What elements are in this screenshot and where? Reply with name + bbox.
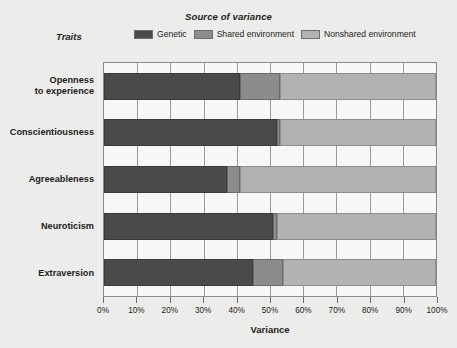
y-axis-tick-label-text: Conscientiousness [10,127,94,138]
bar-segment[interactable] [283,259,436,286]
stacked-bar[interactable] [104,119,436,146]
plot-area [103,62,437,297]
stacked-bar[interactable] [104,259,436,286]
bar-row [104,156,436,203]
bar-segment[interactable] [240,73,280,100]
legend-item: Genetic [134,30,187,39]
legend-item-label: Genetic [157,30,187,39]
bar-segment[interactable] [277,213,436,240]
bar-row [104,203,436,250]
y-axis-tick-labels: Opennessto experienceConscientiousnessAg… [0,62,99,297]
x-axis-tick [170,297,171,303]
chart-legend: GeneticShared environmentNonshared envir… [134,30,416,39]
bar-row [104,249,436,296]
x-axis-tick [203,297,204,303]
bar-rows [104,63,436,296]
x-axis-tick-label: 40% [228,306,244,315]
legend-item: Nonshared environment [301,30,416,39]
x-axis-tick-label: 80% [362,306,378,315]
bar-segment[interactable] [280,73,436,100]
legend-item-label: Shared environment [217,30,294,39]
y-axis-title: Traits [56,31,82,42]
y-axis-tick-label: Extraversion [0,250,99,297]
x-axis-tick [370,297,371,303]
bar-segment[interactable] [104,73,240,100]
bar-segment[interactable] [240,166,436,193]
stacked-bar[interactable] [104,73,436,100]
y-axis-tick-label: Agreeableness [0,156,99,203]
y-axis-tick-label-text: Opennessto experience [35,75,94,97]
bar-row [104,110,436,157]
legend-item: Shared environment [194,30,294,39]
y-axis-tick-label: Conscientiousness [0,109,99,156]
x-axis-ticks [103,297,437,305]
x-axis-tick-label: 100% [427,306,448,315]
x-axis-tick [437,297,438,303]
x-axis-tick-label: 20% [162,306,178,315]
legend-swatch-icon [194,30,213,39]
x-axis-tick-label: 0% [97,306,109,315]
bar-segment[interactable] [253,259,283,286]
chart-title: Source of variance [0,11,457,22]
y-axis-tick-label-line: Agreeableness [29,174,94,185]
y-axis-tick-label-line: Openness [35,75,94,86]
x-axis-tick [303,297,304,303]
y-axis-tick-label-text: Extraversion [38,268,94,279]
x-axis-tick-label: 70% [329,306,345,315]
x-axis-tick-labels: 0%10%20%30%40%50%60%70%80%90%100% [103,306,437,320]
y-axis-tick-label-line: Neuroticism [41,221,94,232]
bar-segment[interactable] [104,119,277,146]
x-axis-tick-label: 10% [128,306,144,315]
y-axis-tick-label-line: Conscientiousness [10,127,94,138]
y-axis-tick-label: Opennessto experience [0,62,99,109]
legend-swatch-icon [301,30,320,39]
x-axis-title: Variance [103,324,437,335]
bar-segment[interactable] [104,166,227,193]
x-axis-tick [404,297,405,303]
bar-segment[interactable] [104,213,273,240]
y-axis-tick-label-line: to experience [35,86,94,97]
y-axis-tick-label: Neuroticism [0,203,99,250]
y-axis-tick-label-text: Neuroticism [41,221,94,232]
x-axis-tick-label: 60% [295,306,311,315]
x-axis-tick-label: 30% [195,306,211,315]
bar-segment[interactable] [104,259,253,286]
x-axis-tick-label: 50% [262,306,278,315]
stacked-bar[interactable] [104,213,436,240]
x-axis-tick-label: 90% [395,306,411,315]
x-axis-tick [337,297,338,303]
bar-segment[interactable] [227,166,240,193]
y-axis-tick-label-text: Agreeableness [29,174,94,185]
x-axis-tick [136,297,137,303]
x-axis-tick [103,297,104,303]
chart-canvas: Source of variance Traits GeneticShared … [0,0,457,348]
legend-item-label: Nonshared environment [324,30,416,39]
x-axis-tick [237,297,238,303]
stacked-bar[interactable] [104,166,436,193]
x-axis-tick [270,297,271,303]
bar-segment[interactable] [280,119,436,146]
y-axis-tick-label-line: Extraversion [38,268,94,279]
legend-swatch-icon [134,30,153,39]
bar-row [104,63,436,110]
